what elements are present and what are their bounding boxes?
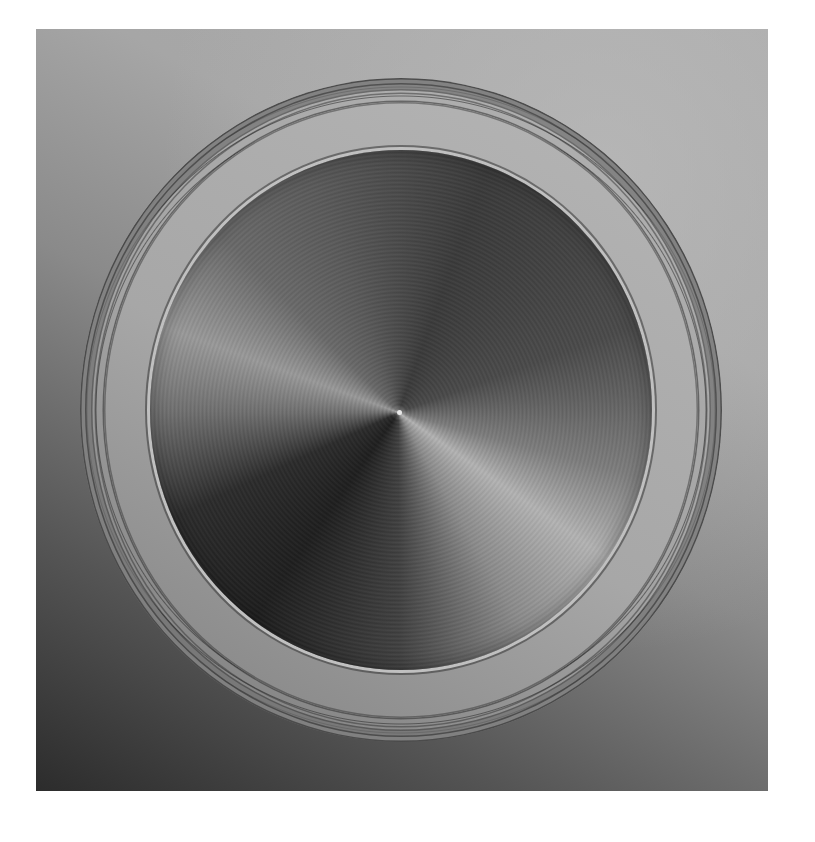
photograph — [36, 29, 768, 791]
center-spindle-point — [397, 410, 402, 415]
spun-metal-disc — [150, 150, 652, 670]
